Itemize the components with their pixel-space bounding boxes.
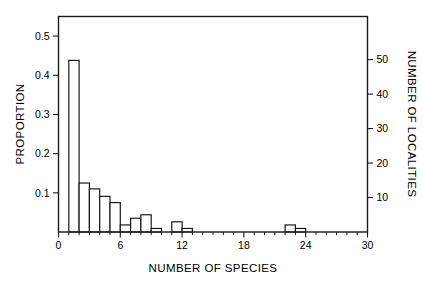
histogram-figure: 0612182430 0.10.20.30.40.5 1020304050 NU…: [0, 0, 423, 289]
x-tick-label: 6: [117, 239, 123, 251]
chart-canvas: 0612182430 0.10.20.30.40.5 1020304050 NU…: [0, 0, 423, 289]
y-tick-label-left: 0.1: [35, 187, 50, 199]
x-tick-label: 24: [300, 239, 312, 251]
histogram-bar: [172, 222, 182, 232]
histogram-bar: [100, 196, 110, 232]
x-tick-label: 0: [56, 239, 62, 251]
y-tick-label-left: 0.2: [35, 147, 50, 159]
y-tick-label-right: 50: [377, 53, 389, 65]
x-tick-label: 12: [176, 239, 188, 251]
y-tick-label-left: 0.4: [35, 69, 50, 81]
y-tick-label-left: 0.5: [35, 30, 50, 42]
histogram-bar: [120, 225, 130, 232]
y-tick-label-right: 20: [377, 157, 389, 169]
x-tick-label: 30: [362, 239, 374, 251]
histogram-bar: [69, 60, 79, 232]
y-tick-label-left: 0.3: [35, 108, 50, 120]
y-tick-label-right: 30: [377, 122, 389, 134]
y-tick-label-right: 40: [377, 88, 389, 100]
histogram-bar: [141, 215, 151, 232]
histogram-bar: [131, 218, 141, 232]
histogram-bar: [285, 225, 295, 232]
x-axis-label: NUMBER OF SPECIES: [149, 262, 278, 274]
x-tick-label: 18: [238, 239, 250, 251]
y-axis-left-label: PROPORTION: [14, 83, 26, 164]
histogram-bar: [110, 203, 120, 232]
y-tick-label-right: 10: [377, 191, 389, 203]
histogram-bar: [89, 189, 99, 232]
y-axis-right-label: NUMBER OF LOCALITIES: [406, 51, 418, 198]
figure-background: [0, 0, 423, 289]
histogram-bar: [79, 183, 89, 232]
